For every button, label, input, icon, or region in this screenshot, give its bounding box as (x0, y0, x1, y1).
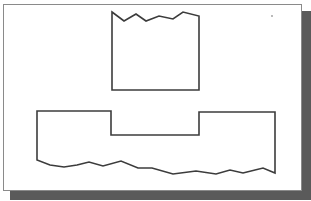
upper-part-outline (112, 12, 199, 90)
scan-speck (271, 15, 273, 17)
technical-drawing (0, 0, 311, 201)
lower-part-outline (37, 111, 275, 174)
